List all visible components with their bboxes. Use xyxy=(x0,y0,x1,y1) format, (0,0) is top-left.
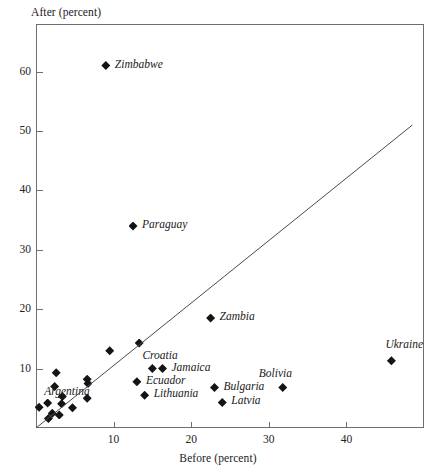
point-label-paraguay: Paraguay xyxy=(142,218,187,230)
scatter-chart-figure: After (percent) 10203040506010203040 Zim… xyxy=(0,0,436,475)
y-axis-title: After (percent) xyxy=(31,6,101,18)
y-tick-mark xyxy=(37,250,43,251)
y-tick-label: 50 xyxy=(5,124,31,136)
y-tick-label: 40 xyxy=(5,183,31,195)
y-tick-label: 30 xyxy=(5,243,31,255)
x-tick-label: 30 xyxy=(254,433,284,445)
x-tick-mark xyxy=(114,422,115,428)
point-label-ukraine: Ukraine xyxy=(385,338,423,350)
x-tick-mark xyxy=(191,422,192,428)
y-tick-mark xyxy=(37,72,43,73)
x-tick-mark xyxy=(269,422,270,428)
x-axis-title: Before (percent) xyxy=(0,452,436,464)
point-label-bulgaria: Bulgaria xyxy=(223,380,264,392)
x-tick-label: 20 xyxy=(176,433,206,445)
point-label-latvia: Latvia xyxy=(231,394,260,406)
point-label-argentina: Argentina xyxy=(44,385,90,397)
point-label-jamaica: Jamaica xyxy=(171,361,210,373)
y-tick-mark xyxy=(37,131,43,132)
y-tick-label: 60 xyxy=(5,65,31,77)
x-tick-mark xyxy=(346,422,347,428)
point-label-bolivia: Bolivia xyxy=(259,367,292,379)
y-tick-mark xyxy=(37,190,43,191)
point-label-zambia: Zambia xyxy=(220,310,255,322)
y-tick-label: 20 xyxy=(5,302,31,314)
y-tick-mark xyxy=(37,369,43,370)
point-label-croatia: Croatia xyxy=(142,349,177,361)
point-label-ecuador: Ecuador xyxy=(146,374,186,386)
y-tick-mark xyxy=(37,309,43,310)
plot-area-frame xyxy=(36,24,424,428)
x-tick-label: 40 xyxy=(331,433,361,445)
point-label-zimbabwe: Zimbabwe xyxy=(115,58,163,70)
x-tick-label: 10 xyxy=(99,433,129,445)
point-label-lithuania: Lithuania xyxy=(154,387,199,399)
y-tick-label: 10 xyxy=(5,362,31,374)
